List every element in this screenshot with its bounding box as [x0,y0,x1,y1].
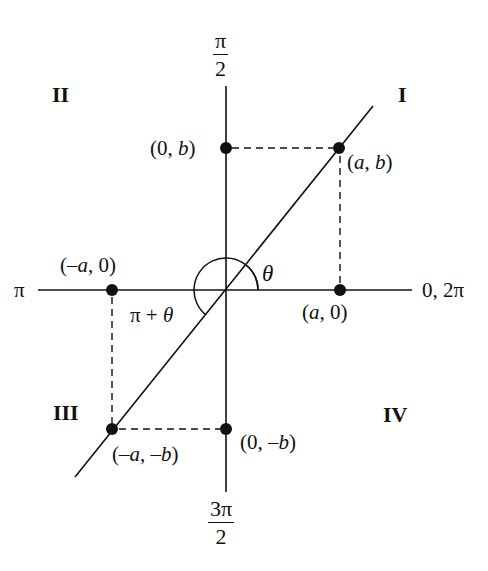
var-theta: θ [163,303,173,327]
var-a: a [354,150,365,174]
quadrant-label-iii: III [53,402,79,424]
point-a-0 [334,284,346,296]
var-a: a [309,300,320,324]
point-label-neg-a-neg-b: (–a, –b) [112,444,179,465]
text: , 0) [320,300,348,324]
label-pi: π [14,280,25,301]
diagonal-line [75,106,373,477]
var-a: a [78,253,89,277]
pi-over-2-denominator: 2 [213,55,228,80]
text: , – [140,442,161,466]
point-a-b [333,142,345,154]
var-b: b [375,150,386,174]
var-b: b [279,430,290,454]
quadrant-label-i: I [398,84,407,106]
pi-over-2-numerator: π [213,30,228,55]
point-label-0-b: (0, b) [150,138,196,159]
pi-plus-theta-label: π + θ [130,305,173,326]
point-neg-a-0 [106,284,118,296]
point-label-a-0: (a, 0) [302,302,348,323]
label-3pi-over-2: 3π 2 [208,498,234,548]
text: (0, – [240,430,279,454]
text: ( [347,150,354,174]
polar-diagram: π 2 3π 2 π 0, 2π I II III IV (a, b) (0, … [0,0,488,571]
quadrant-label-iv: IV [383,404,407,426]
text: (– [60,253,78,277]
text: π + [130,303,163,327]
point-label-0-neg-b: (0, –b) [240,432,296,453]
3pi-over-2-numerator: 3π [208,498,234,523]
point-0-b [220,142,232,154]
text: , [365,150,376,174]
point-label-a-b: (a, b) [347,152,393,173]
text: ) [189,136,196,160]
diagram-graphics [0,0,488,571]
text: ) [172,442,179,466]
point-neg-a-neg-b [106,423,118,435]
3pi-over-2-denominator: 2 [208,523,234,548]
label-pi-over-2: π 2 [213,30,228,80]
label-0-2pi: 0, 2π [422,280,464,301]
text: ) [289,430,296,454]
text: ) [386,150,393,174]
text: (– [112,442,130,466]
text: ( [302,300,309,324]
var-a: a [130,442,141,466]
quadrant-label-ii: II [52,84,69,106]
var-b: b [161,442,172,466]
theta-label: θ [262,262,273,285]
point-0-neg-b [220,423,232,435]
var-b: b [178,136,189,160]
text: , 0) [88,253,116,277]
text: (0, [150,136,178,160]
point-label-neg-a-0: (–a, 0) [60,255,116,276]
